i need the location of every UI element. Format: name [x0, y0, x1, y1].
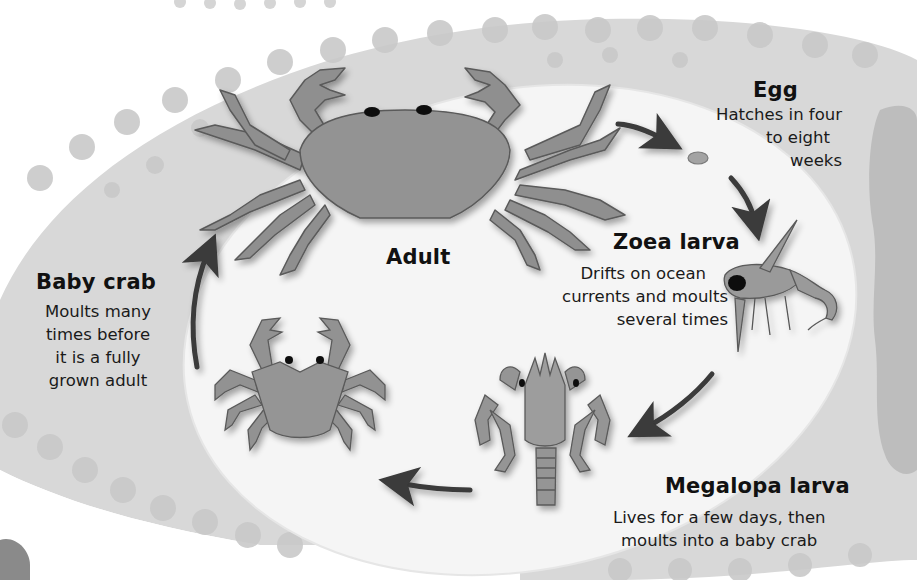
baby-description-line-3: it is a fully: [28, 346, 168, 369]
baby-description-line-1: Moults many: [28, 300, 168, 323]
megalopa-description-line-1: Lives for a few days, then: [613, 506, 863, 529]
baby-crab-label: Baby crab: [36, 270, 156, 294]
egg-label: Egg: [753, 78, 798, 102]
zoea-larva-label: Zoea larva: [613, 230, 740, 254]
adult-label: Adult: [386, 245, 450, 269]
egg-icon: [688, 152, 708, 164]
zoea-description-line-2: currents and moults: [540, 285, 728, 308]
zoea-description-line-1: Drifts on ocean: [540, 262, 728, 285]
baby-description-line-2: times before: [28, 323, 168, 346]
baby-crab-description: Moults many times before it is a fully g…: [28, 300, 168, 392]
zoea-description-line-3: several times: [540, 308, 728, 331]
egg-description-line-2: to eight: [712, 126, 842, 149]
baby-description-line-4: grown adult: [28, 369, 168, 392]
megalopa-larva-label: Megalopa larva: [665, 474, 850, 498]
egg-description-line-3: weeks: [712, 149, 842, 172]
crab-life-cycle-diagram: Adult Egg Hatches in four to eight weeks…: [0, 0, 917, 580]
megalopa-larva-description: Lives for a few days, then moults into a…: [613, 506, 863, 552]
egg-description: Hatches in four to eight weeks: [712, 103, 842, 172]
zoea-larva-description: Drifts on ocean currents and moults seve…: [540, 262, 728, 331]
egg-description-line-1: Hatches in four: [712, 103, 842, 126]
megalopa-description-line-2: moults into a baby crab: [613, 529, 863, 552]
